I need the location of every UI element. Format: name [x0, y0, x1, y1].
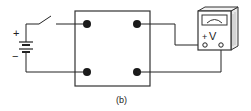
switch-icon	[39, 16, 51, 24]
voltmeter-plus-label: +	[202, 32, 207, 42]
voltmeter-unit-label: V	[209, 30, 217, 42]
battery-switch-circuit	[26, 16, 87, 72]
voltmeter-negative-terminal	[219, 43, 223, 47]
wire-battery-to-switch	[26, 24, 39, 42]
wire-top-right-to-voltmeter	[137, 24, 204, 45]
voltmeter-icon	[198, 7, 238, 50]
battery-icon	[19, 42, 33, 52]
figure-caption: (b)	[116, 95, 127, 105]
battery-plus-label: +	[13, 27, 19, 39]
wire-battery-to-terminal	[26, 52, 87, 72]
battery-minus-label: −	[12, 50, 18, 62]
circuit-diagram: + − + V (b)	[0, 0, 251, 111]
voltmeter-positive-terminal	[203, 43, 207, 47]
